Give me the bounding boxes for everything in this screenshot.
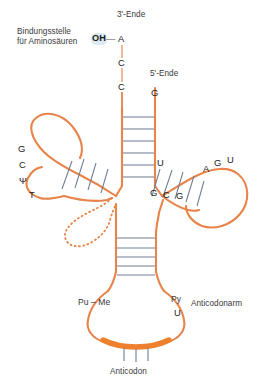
oh-bond-dash: — bbox=[106, 33, 115, 45]
anticodon-bar bbox=[103, 340, 169, 347]
t-loop-base-psi: Ψ bbox=[19, 175, 27, 187]
t-arm-stem-rungs bbox=[62, 159, 108, 193]
anticodon-ticks bbox=[124, 348, 148, 362]
anticodon-stem-rungs bbox=[117, 238, 155, 275]
acceptor-base-g: G bbox=[151, 87, 158, 99]
d-arm-base-g1: G bbox=[150, 187, 157, 199]
variable-loop-dotted bbox=[65, 198, 116, 246]
anticodon-loop-py-label: Py bbox=[171, 294, 181, 305]
t-loop-base-c: C bbox=[19, 159, 26, 171]
d-loop-base-g: G bbox=[214, 157, 221, 169]
trna-cloverleaf-diagram: 3'-Ende Bindungsstelle für Aminosäuren O… bbox=[0, 0, 268, 386]
acceptor-base-c2: C bbox=[118, 81, 125, 93]
oh-group-label: OH bbox=[91, 33, 107, 45]
anticodon-loop-left-label: Pu – Me bbox=[78, 297, 110, 308]
anticodon-loop-u-label: U bbox=[174, 307, 181, 319]
acceptor-base-c1: C bbox=[118, 57, 125, 69]
label-binding-site-line2: für Aminosäuren bbox=[17, 37, 77, 47]
t-loop-base-g: G bbox=[18, 143, 25, 155]
t-loop-base-t: T bbox=[29, 189, 35, 201]
label-anticodon-arm: Anticodonarm bbox=[191, 299, 242, 309]
label-binding-site-line1: Bindungsstelle bbox=[17, 27, 71, 37]
acceptor-stem-rungs bbox=[123, 117, 154, 177]
trna-structure-svg bbox=[0, 0, 268, 386]
d-arm-base-u-top: U bbox=[157, 157, 164, 169]
d-arm-base-g2: G bbox=[176, 190, 183, 202]
acceptor-base-a: A bbox=[118, 33, 124, 45]
d-loop-base-a: A bbox=[203, 163, 209, 175]
d-arm-base-c: C bbox=[163, 189, 170, 201]
label-anticodon: Anticodon bbox=[110, 367, 147, 377]
label-3prime-end: 3'-Ende bbox=[117, 10, 145, 20]
label-5prime-end: 5'-Ende bbox=[150, 69, 178, 79]
d-loop-base-u: U bbox=[227, 154, 234, 166]
